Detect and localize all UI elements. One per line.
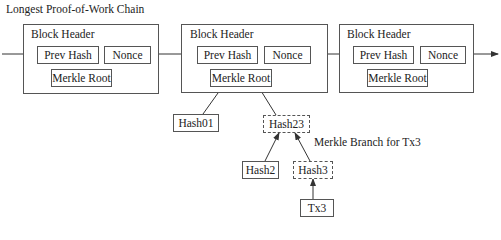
block-1-merkle-root: Merkle Root [51, 69, 112, 87]
hash3-node: Hash3 [293, 161, 333, 179]
block-2-prev-hash: Prev Hash [197, 46, 258, 64]
block-2-merkle-root: Merkle Root [210, 69, 272, 87]
block-1-nonce: Nonce [104, 46, 151, 64]
hash2-node: Hash2 [242, 161, 279, 179]
arrow-hash3-to-hash23 [295, 133, 310, 161]
block-3-nonce: Nonce [420, 46, 466, 64]
block-3-header-label: Block Header [347, 28, 411, 40]
block-1-header-label: Block Header [31, 28, 95, 40]
arrow-hash2-to-hash23 [265, 133, 279, 161]
block-2-nonce: Nonce [264, 46, 311, 64]
hash23-node: Hash23 [263, 115, 310, 133]
merkle-branch-annotation: Merkle Branch for Tx3 [314, 136, 421, 148]
block-2: Block Header Prev Hash Nonce Merkle Root [181, 24, 328, 93]
block-3-merkle-root: Merkle Root [367, 69, 428, 87]
block-1: Block Header Prev Hash Nonce Merkle Root [23, 24, 159, 94]
block-3: Block Header Prev Hash Nonce Merkle Root [339, 24, 474, 93]
block-3-prev-hash: Prev Hash [353, 46, 414, 64]
block-2-header-label: Block Header [190, 28, 254, 40]
hash01-node: Hash01 [173, 114, 219, 132]
tx3-node: Tx3 [300, 199, 334, 217]
block-1-prev-hash: Prev Hash [37, 46, 99, 64]
